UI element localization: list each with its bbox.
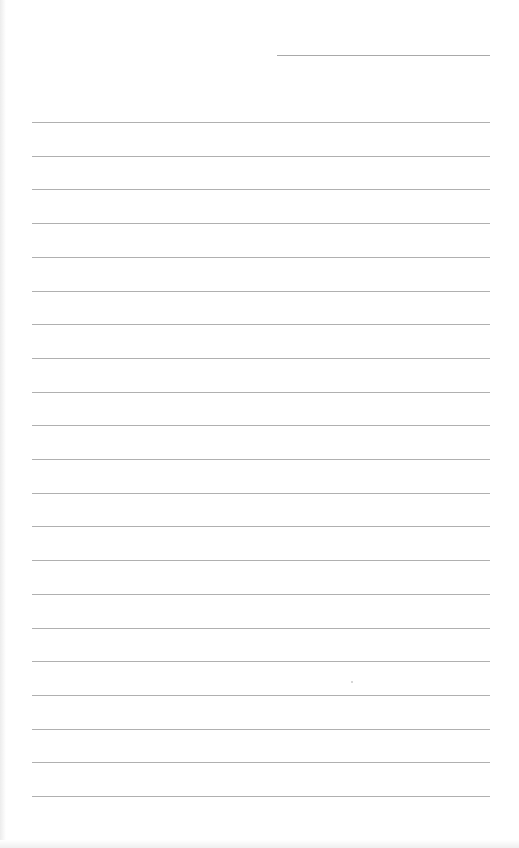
ruled-line (32, 560, 490, 561)
ruled-line (32, 392, 490, 393)
ruled-line (32, 526, 490, 527)
paper-bottom-edge-shadow (0, 840, 519, 848)
ruled-line (32, 628, 490, 629)
ruled-line (32, 156, 490, 157)
ruled-line (32, 594, 490, 595)
ruled-line (32, 358, 490, 359)
ruled-line (32, 762, 490, 763)
ruled-line (32, 223, 490, 224)
ruled-line (32, 257, 490, 258)
ruled-line (32, 695, 490, 696)
ruled-line (32, 425, 490, 426)
header-name-line (277, 55, 490, 56)
paper-left-edge-shadow (0, 0, 6, 848)
paper-speck (351, 681, 353, 683)
ruled-line (32, 189, 490, 190)
ruled-line (32, 796, 490, 797)
ruled-line (32, 324, 490, 325)
ruled-line (32, 493, 490, 494)
ruled-line (32, 122, 490, 123)
ruled-line (32, 291, 490, 292)
ruled-line (32, 729, 490, 730)
ruled-line (32, 661, 490, 662)
ruled-line (32, 459, 490, 460)
